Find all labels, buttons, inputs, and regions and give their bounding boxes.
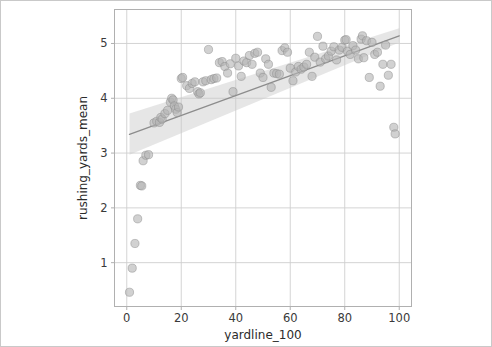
y-tick-label: 1 bbox=[100, 256, 107, 270]
y-tick-label: 4 bbox=[100, 91, 107, 105]
y-tick-labels: 12345 bbox=[100, 36, 107, 269]
x-tick-labels: 020406080100 bbox=[123, 311, 410, 325]
scatter-plot: 020406080100 12345 yardline_100 rushing_… bbox=[1, 1, 492, 347]
figure-container: 020406080100 12345 yardline_100 rushing_… bbox=[0, 0, 492, 347]
x-tick-label: 0 bbox=[123, 311, 130, 325]
x-tick-label: 60 bbox=[283, 311, 298, 325]
x-tick-label: 40 bbox=[228, 311, 243, 325]
x-tick-label: 80 bbox=[337, 311, 352, 325]
x-tick-label: 20 bbox=[174, 311, 189, 325]
y-axis-title: rushing_yards_mean bbox=[76, 96, 90, 220]
x-axis-title: yardline_100 bbox=[224, 328, 301, 342]
y-tick-label: 3 bbox=[100, 146, 107, 160]
x-tick-label: 100 bbox=[388, 311, 410, 325]
y-tick-label: 5 bbox=[100, 36, 107, 50]
y-tick-label: 2 bbox=[100, 201, 107, 215]
